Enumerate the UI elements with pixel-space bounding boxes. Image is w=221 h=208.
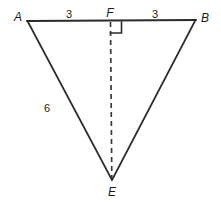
vertex-label-b: B xyxy=(201,12,209,24)
segment-ae xyxy=(28,22,112,180)
measure-label-ae: 6 xyxy=(44,103,50,114)
segment-fe-altitude xyxy=(111,22,112,178)
measure-label-af: 3 xyxy=(66,9,72,20)
vertex-label-e: E xyxy=(108,186,116,198)
figure-canvas xyxy=(0,0,221,208)
right-angle-icon xyxy=(111,22,122,33)
vertex-label-f: F xyxy=(106,7,113,19)
segment-ab xyxy=(27,20,196,21)
geometry-figure: A B F E 3 3 6 xyxy=(0,0,221,208)
segment-be xyxy=(112,21,195,180)
measure-label-fb: 3 xyxy=(152,9,158,20)
vertex-label-a: A xyxy=(14,11,22,23)
